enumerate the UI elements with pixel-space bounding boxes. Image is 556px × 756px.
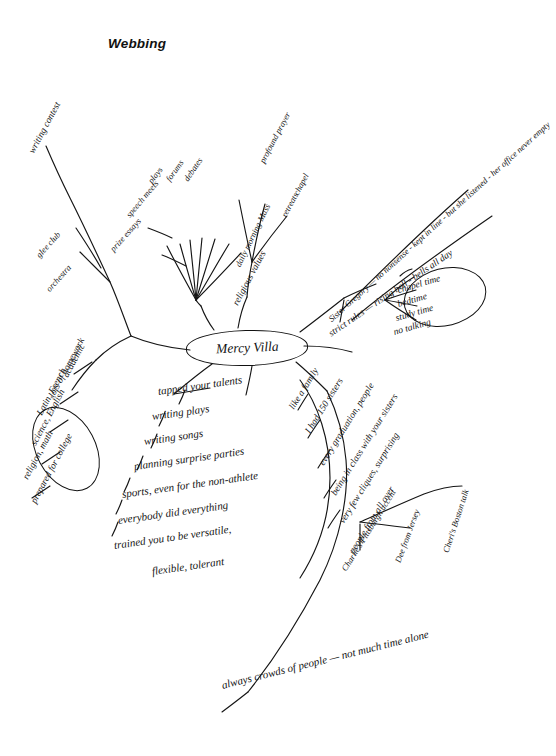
- branch-sister-gregory: Sister Gregory — no nonsense - kept in l…: [327, 120, 552, 324]
- activity-item-orchestra: orchestra: [45, 263, 74, 293]
- talent-item-writing-plays: writing plays: [151, 403, 210, 422]
- activity-item-forums: forums: [164, 159, 185, 184]
- connector-lines: [0, 0, 556, 756]
- talent-item-sports-non-athlete: sports, even for the non-athlete: [121, 470, 258, 501]
- webbing-canvas: Webbing Mercy Villa writing contest glee…: [0, 0, 556, 756]
- talent-item-everybody-did-everything: everybody did everything: [117, 500, 229, 527]
- footer-note: always crowds of people — not much time …: [221, 629, 430, 692]
- activity-item-prize-essays: prize essays: [109, 217, 143, 254]
- page-title: Webbing: [108, 36, 166, 51]
- accent-item-dee-jersey: Dee from Jersey: [394, 508, 422, 564]
- talent-item-planning-surprise-parties: planning surprise parties: [133, 446, 245, 473]
- talent-item-trained-versatile: trained you to be versatile,: [113, 524, 232, 552]
- center-node[interactable]: Mercy Villa: [186, 328, 309, 367]
- activity-item-speech-meets: speech meets: [125, 179, 161, 219]
- branch-writing-contest: writing contest: [28, 101, 63, 156]
- talent-item-flexible-tolerant: flexible, tolerant: [151, 556, 225, 578]
- talent-item-tapped-your-talents: tapped your talents: [157, 374, 243, 397]
- activity-item-debates: debates: [182, 156, 204, 183]
- activity-item-glee-club: glee club: [35, 230, 63, 259]
- center-node-label: Mercy Villa: [215, 339, 278, 358]
- religion-child-profound-prayer: profound prayer: [258, 111, 292, 165]
- accent-item-cheri-boston: Cheri's Boston talk: [442, 489, 471, 554]
- religion-child-chapel: chapel: [292, 172, 311, 196]
- branch-like-a-family: like a family: [288, 367, 321, 412]
- talent-item-writing-songs: writing songs: [143, 428, 204, 448]
